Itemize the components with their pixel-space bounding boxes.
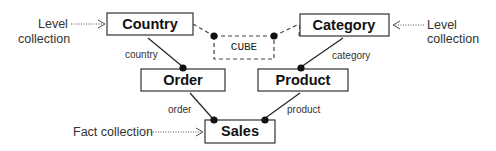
edge-order-sales xyxy=(190,93,214,120)
annotation-fact: Fact collection xyxy=(73,125,153,139)
annotation-right-level-line1: Level xyxy=(427,18,457,32)
connector-dot-order xyxy=(179,64,186,71)
edge-label-category: category xyxy=(332,50,370,61)
connector-dot-sales-product xyxy=(261,116,268,123)
node-category-label: Category xyxy=(313,17,376,33)
annotation-left-level-line2: collection xyxy=(18,32,70,46)
node-sales-label: Sales xyxy=(221,123,259,139)
edge-label-order: order xyxy=(168,104,192,115)
edge-country-cube xyxy=(193,24,214,36)
arrowhead-right-icon xyxy=(196,128,203,136)
connector-dot-sales-order xyxy=(210,116,217,123)
cube-label: CUBE xyxy=(231,41,258,53)
edge-label-country: country xyxy=(125,49,158,60)
node-country-label: Country xyxy=(122,16,178,32)
node-order-label: Order xyxy=(163,72,203,88)
edge-label-product: product xyxy=(287,104,321,115)
connector-dot-product xyxy=(297,64,304,71)
connector-dot-cube-country xyxy=(210,32,217,39)
connector-dot-cube-category xyxy=(270,32,277,39)
edge-cube-category xyxy=(274,24,299,36)
data-model-diagram: CUBE Country Category Order Product Sale… xyxy=(0,0,496,151)
annotation-right-level-line2: collection xyxy=(427,32,479,46)
annotation-left-level-line1: Level xyxy=(38,17,68,31)
node-product-label: Product xyxy=(276,72,331,88)
